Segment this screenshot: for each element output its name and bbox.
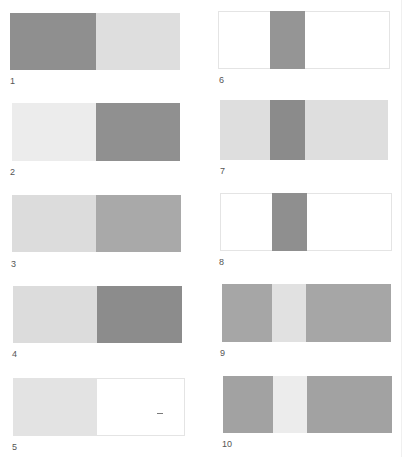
figure-5-stray-mark	[157, 413, 163, 414]
figure-3-label: 3	[11, 259, 16, 269]
figure-4-label: 4	[12, 349, 17, 359]
figure-10	[223, 376, 392, 433]
figure-8-label: 8	[219, 257, 224, 267]
figure-10-center-light-stripe	[273, 376, 307, 433]
figure-5-left-light	[13, 378, 97, 436]
figure-4-right-dark	[97, 286, 182, 343]
figure-1	[10, 13, 180, 70]
figure-2	[12, 103, 180, 161]
figure-9-center-light-stripe	[272, 284, 306, 342]
figure-9	[222, 284, 391, 342]
figure-2-left-light	[12, 103, 96, 161]
figure-1-left-dark	[10, 13, 96, 70]
figure-8-center-dark-stripe	[272, 193, 307, 251]
figure-8	[220, 193, 392, 251]
figure-5	[13, 378, 184, 436]
figure-5-label: 5	[12, 442, 17, 452]
figure-10-label: 10	[222, 439, 232, 449]
figure-7-center-dark-stripe	[270, 100, 305, 160]
figure-5-right-white	[97, 378, 185, 436]
figure-9-label: 9	[220, 348, 225, 358]
figure-7-label: 7	[220, 166, 225, 176]
figure-6	[218, 11, 390, 69]
figure-1-label: 1	[10, 76, 15, 86]
figure-3-right-medium	[96, 195, 181, 252]
figure-2-right-dark	[96, 103, 180, 161]
figure-4	[13, 286, 182, 343]
figure-3-left-light	[12, 195, 96, 252]
figure-4-left-light	[13, 286, 97, 343]
figure-1-right-light	[96, 13, 180, 70]
figure-6-label: 6	[219, 75, 224, 85]
figure-7	[220, 100, 388, 160]
figure-6-center-dark-stripe	[270, 11, 305, 69]
figure-2-label: 2	[10, 167, 15, 177]
figure-3	[12, 195, 181, 252]
